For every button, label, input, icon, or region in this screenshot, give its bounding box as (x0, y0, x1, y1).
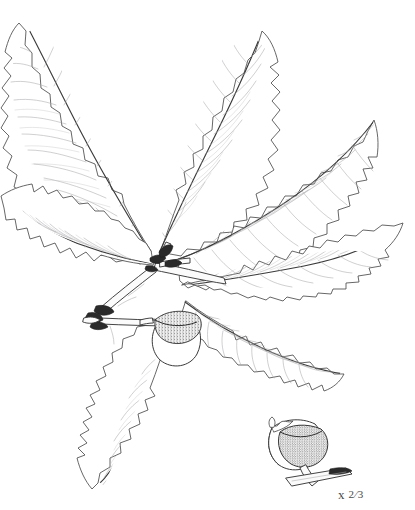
scale-label: x (338, 487, 346, 502)
scale-annotation: x2⁄3 (338, 487, 364, 503)
leaf-lower-right (182, 301, 344, 391)
acorn-detail (269, 417, 352, 486)
scale-fraction: 2⁄3 (349, 488, 365, 500)
illustration-plate: x2⁄3 (0, 0, 415, 510)
lateral-bud-cluster (83, 305, 114, 329)
botanical-illustration (0, 0, 415, 510)
